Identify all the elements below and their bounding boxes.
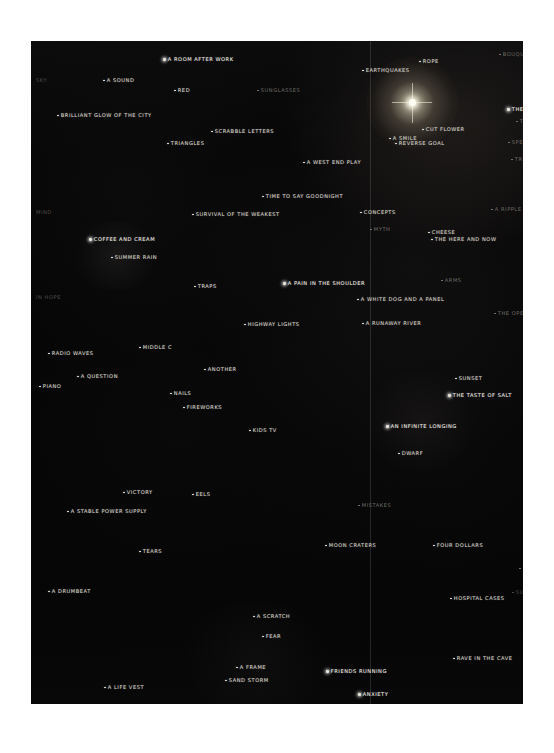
label-marker-dot <box>257 90 259 92</box>
word-label-text: REVERSE GOAL <box>399 140 445 146</box>
word-label: THE <box>519 565 523 571</box>
word-label-text: A RIPPLE IN TH <box>495 206 523 212</box>
word-label: BRILLIANT GLOW OF THE CITY <box>57 112 152 118</box>
word-label-text: A WEST END PLAY <box>307 159 361 165</box>
label-marker-dot <box>67 511 69 513</box>
word-label-text: T <box>520 118 523 124</box>
word-label-text: PIANO <box>43 383 62 389</box>
word-label: DWARF <box>398 450 423 456</box>
word-label-text: CONCEPTS <box>364 209 396 215</box>
label-marker-dot <box>139 347 141 349</box>
label-marker-dot <box>357 299 359 301</box>
word-label: THE SUN <box>507 106 523 112</box>
word-label: A RUNAWAY RIVER <box>362 320 421 326</box>
label-marker-dot <box>491 209 493 211</box>
word-label: RED <box>174 87 190 93</box>
word-label: SUNSET <box>455 375 482 381</box>
word-label-text: SUNGLASSES <box>261 87 301 93</box>
label-marker-dot <box>370 229 372 231</box>
word-label: THE TASTE OF SALT <box>448 392 512 398</box>
word-label: FEAR <box>262 633 281 639</box>
label-marker-dot <box>453 658 455 660</box>
word-label: SAND STORM <box>225 677 269 683</box>
word-label: A SOUND <box>103 77 134 83</box>
word-label: COFFEE AND CREAM <box>89 236 155 242</box>
label-marker-dot <box>433 545 435 547</box>
label-marker-dot <box>194 286 196 288</box>
label-marker-dot <box>428 232 430 234</box>
word-label: FRIENDS RUNNING <box>326 668 387 674</box>
word-label: VICTORY <box>123 489 153 495</box>
word-label-text: SPECIAL <box>512 139 523 145</box>
word-label: ANXIETY <box>358 691 388 697</box>
label-marker-dot <box>398 453 400 455</box>
word-label: RAVE IN THE CAVE <box>453 655 513 661</box>
secondary-glow-center <box>361 371 481 471</box>
word-label-text: DWARF <box>402 450 423 456</box>
word-label: PIANO <box>39 383 61 389</box>
word-label-text: FIREWORKS <box>187 404 222 410</box>
label-marker-dot <box>516 121 518 123</box>
label-marker-dot <box>508 142 510 144</box>
word-label: NAILS <box>170 390 191 396</box>
word-label: ROPE <box>419 58 439 64</box>
word-label-text: NAILS <box>174 390 192 396</box>
word-label-text: A WHITE DOG AND A PANEL <box>361 296 445 302</box>
word-label: HIGHWAY LIGHTS <box>244 321 300 327</box>
word-label: SPECIAL <box>508 139 523 145</box>
word-label-text: FOUR DOLLARS <box>437 542 483 548</box>
word-label: TRIP <box>511 156 523 162</box>
word-label-text: EELS <box>196 491 211 497</box>
label-marker-dot <box>123 492 125 494</box>
label-marker-dot <box>104 687 106 689</box>
word-label-text: ANOTHER <box>208 366 237 372</box>
label-marker-dot <box>249 430 251 432</box>
word-label: A FRAME <box>236 664 266 670</box>
word-label: MIND <box>36 209 52 215</box>
word-label: SKY <box>36 77 47 83</box>
word-label: SUNFLOW <box>512 589 523 595</box>
word-label-text: THE SUN <box>512 106 523 112</box>
label-marker-dot <box>57 115 59 117</box>
word-label-text: RED <box>178 87 190 93</box>
word-label: ARMS <box>441 277 462 283</box>
lens-flare-horizontal <box>392 102 432 103</box>
word-label: EELS <box>192 491 211 497</box>
word-label-text: THE OPEN SKY <box>498 310 523 316</box>
word-label-text: MIDDLE C <box>143 344 172 350</box>
word-label-text: MYTH <box>374 226 391 232</box>
label-marker-dot <box>211 131 213 133</box>
word-label-text: COFFEE AND CREAM <box>94 236 155 242</box>
word-label-text: FEAR <box>266 633 281 639</box>
word-label-text: TIME TO SAY GOODNIGHT <box>266 193 343 199</box>
word-label-text: SKY <box>36 77 47 83</box>
word-label-text: HOSPITAL CASES <box>454 595 505 601</box>
label-marker-dot <box>326 670 329 673</box>
word-label: A SCRATCH <box>253 613 290 619</box>
label-marker-dot <box>386 425 389 428</box>
label-marker-dot <box>244 324 246 326</box>
label-marker-dot <box>192 494 194 496</box>
label-marker-dot <box>283 282 286 285</box>
word-label-text: A QUESTION <box>81 373 118 379</box>
word-label: A STABLE POWER SUPPLY <box>67 508 147 514</box>
word-label: THE OPEN SKY <box>494 310 523 316</box>
word-label: A WHITE DOG AND A PANEL <box>357 296 444 302</box>
label-marker-dot <box>253 616 255 618</box>
word-label-text: SUMMER RAIN <box>115 254 157 260</box>
word-label: SURVIVAL OF THE WEAKEST <box>192 211 280 217</box>
label-marker-dot <box>225 680 227 682</box>
word-label: A WEST END PLAY <box>303 159 361 165</box>
word-label-text: SUNFLOW <box>516 589 523 595</box>
word-label: A PAIN IN THE SHOULDER <box>283 280 365 286</box>
word-label: THE HERE AND NOW <box>431 236 496 242</box>
word-label: TEARS <box>139 548 162 554</box>
word-label-text: A DRUMBEAT <box>52 588 91 594</box>
label-marker-dot <box>48 591 50 593</box>
label-marker-dot <box>519 568 521 570</box>
word-label-text: TRAPS <box>198 283 217 289</box>
word-label: MYTH <box>370 226 390 232</box>
label-marker-dot <box>494 313 496 315</box>
word-label-text: MIND <box>36 209 52 215</box>
word-label: SUNGLASSES <box>257 87 300 93</box>
